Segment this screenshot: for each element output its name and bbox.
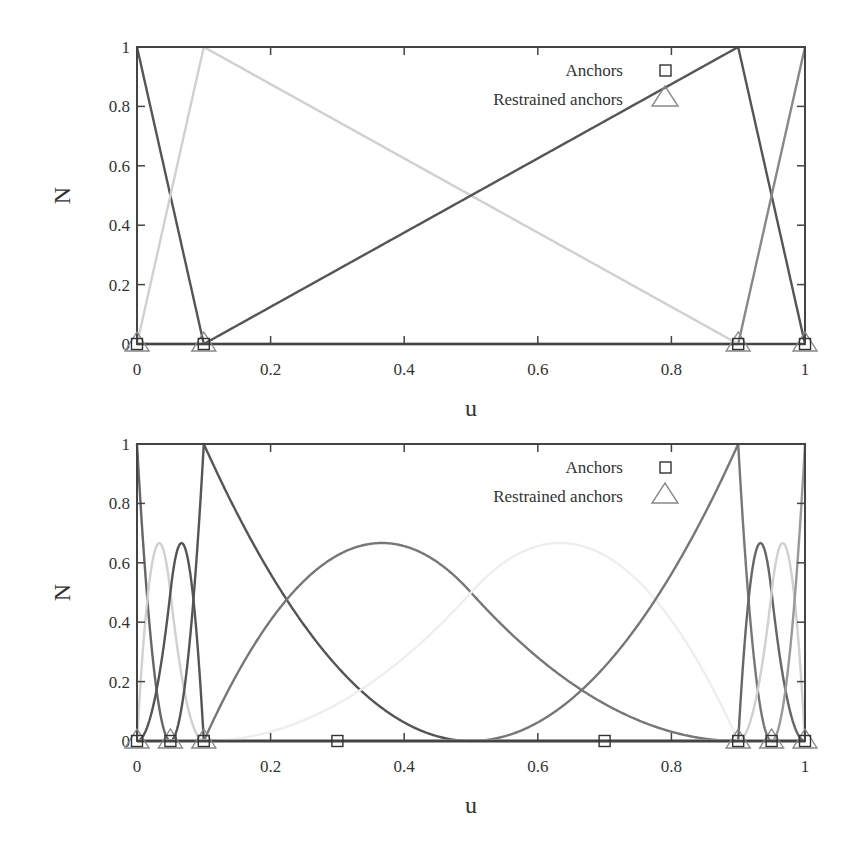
legend-label-anchors: Anchors bbox=[565, 61, 623, 80]
basis-curve-N8 bbox=[137, 543, 805, 741]
y-tick-label: 0.8 bbox=[109, 97, 130, 116]
x-tick-label: 0.6 bbox=[527, 360, 548, 379]
legend-triangle-marker-icon bbox=[652, 483, 678, 503]
legend-label-restrained-anchors: Restrained anchors bbox=[493, 90, 623, 109]
x-tick-label: 1 bbox=[801, 757, 810, 776]
basis-curve-N2 bbox=[137, 543, 805, 741]
y-tick-label: 0.4 bbox=[109, 216, 131, 235]
x-tick-label: 0 bbox=[133, 360, 142, 379]
x-tick-label: 0.2 bbox=[260, 360, 281, 379]
legend-square-marker-icon bbox=[660, 65, 671, 76]
figure: 00.20.40.60.8100.20.40.60.81 Anchors Res… bbox=[0, 0, 858, 858]
x-tick-label: 0.6 bbox=[527, 757, 548, 776]
y-axis-title: N bbox=[49, 584, 75, 601]
axis-ticks: 00.20.40.60.8100.20.40.60.81 bbox=[109, 38, 810, 379]
basis-curve-N6 bbox=[137, 543, 805, 741]
x-tick-label: 0.4 bbox=[394, 360, 416, 379]
restrained-anchor-triangle-icon bbox=[760, 729, 784, 748]
y-tick-label: 1 bbox=[122, 435, 131, 454]
chart-top-linear-basis: 00.20.40.60.8100.20.40.60.81 Anchors Res… bbox=[49, 38, 817, 421]
basis-curve-N9 bbox=[137, 543, 805, 741]
y-tick-label: 0.6 bbox=[109, 157, 130, 176]
x-tick-label: 0.2 bbox=[260, 757, 281, 776]
x-axis-title: u bbox=[465, 395, 477, 421]
x-axis-title: u bbox=[465, 792, 477, 818]
y-axis-title: N bbox=[49, 187, 75, 204]
x-tick-label: 0.4 bbox=[394, 757, 416, 776]
legend: Anchors Restrained anchors bbox=[493, 458, 678, 506]
y-tick-label: 1 bbox=[122, 38, 131, 57]
basis-curves bbox=[137, 444, 805, 741]
legend-label-restrained-anchors: Restrained anchors bbox=[493, 487, 623, 506]
basis-curve-N5 bbox=[137, 543, 805, 741]
y-tick-label: 0.4 bbox=[109, 613, 131, 632]
y-tick-label: 0.6 bbox=[109, 554, 130, 573]
legend: Anchors Restrained anchors bbox=[493, 61, 678, 109]
basis-curve-N3 bbox=[137, 543, 805, 741]
y-tick-label: 0.2 bbox=[109, 276, 130, 295]
x-tick-label: 0.8 bbox=[661, 360, 682, 379]
y-tick-label: 0.8 bbox=[109, 494, 130, 513]
restrained-anchor-triangle-icon bbox=[158, 729, 182, 748]
basis-curve-N3 bbox=[137, 47, 805, 344]
basis-curves bbox=[137, 47, 805, 344]
anchor-markers bbox=[125, 332, 817, 351]
legend-square-marker-icon bbox=[660, 462, 671, 473]
x-tick-label: 1 bbox=[801, 360, 810, 379]
x-tick-label: 0 bbox=[133, 757, 142, 776]
y-tick-label: 0.2 bbox=[109, 673, 130, 692]
legend-label-anchors: Anchors bbox=[565, 458, 623, 477]
chart-bottom-quadratic-basis: 00.20.40.60.8100.20.40.60.81 Anchors Res… bbox=[49, 435, 817, 818]
x-tick-label: 0.8 bbox=[661, 757, 682, 776]
